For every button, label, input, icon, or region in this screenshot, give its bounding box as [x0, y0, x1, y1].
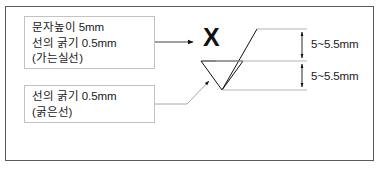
thin-line-callout-line-1: 문자높이 5mm — [32, 20, 148, 36]
diagram-page: 문자높이 5mm 선의 굵기 0.5mm (가는실선) 선의 굵기 0.5mm … — [0, 0, 385, 177]
thin-line-callout-box: 문자높이 5mm 선의 굵기 0.5mm (가는실선) — [24, 16, 155, 69]
upper-dimension-label: 5~5.5mm — [311, 38, 359, 50]
lower-dimension-label: 5~5.5mm — [311, 70, 359, 82]
thick-line-callout-line-2: (굵은선) — [32, 105, 148, 121]
thick-line-callout-box: 선의 굵기 0.5mm (굵은선) — [24, 85, 155, 123]
symbol-letter-x: X — [203, 22, 220, 52]
thin-line-callout-line-2: 선의 굵기 0.5mm — [32, 36, 148, 52]
thin-line-callout-line-3: (가는실선) — [32, 51, 148, 67]
thick-line-callout-line-1: 선의 굵기 0.5mm — [32, 89, 148, 105]
